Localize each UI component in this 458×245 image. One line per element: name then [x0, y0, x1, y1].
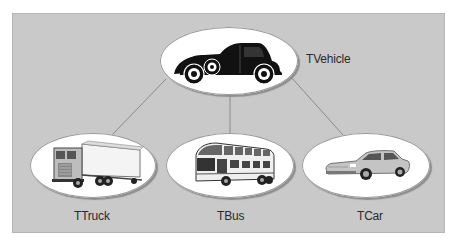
node-car[interactable] [302, 133, 430, 198]
edge-vehicle-car [291, 77, 343, 135]
label-car: TCar [357, 209, 383, 223]
node-vehicle[interactable] [160, 27, 298, 95]
label-vehicle: TVehicle [306, 52, 350, 66]
label-bus: TBus [217, 209, 244, 223]
node-truck[interactable] [30, 133, 156, 198]
edge-vehicle-truck [112, 79, 166, 135]
car-icon [302, 133, 430, 198]
vintage-car-icon [160, 27, 298, 95]
node-bus[interactable] [166, 133, 294, 198]
bus-icon [166, 133, 294, 198]
truck-icon [30, 133, 156, 198]
label-truck: TTruck [74, 209, 110, 223]
